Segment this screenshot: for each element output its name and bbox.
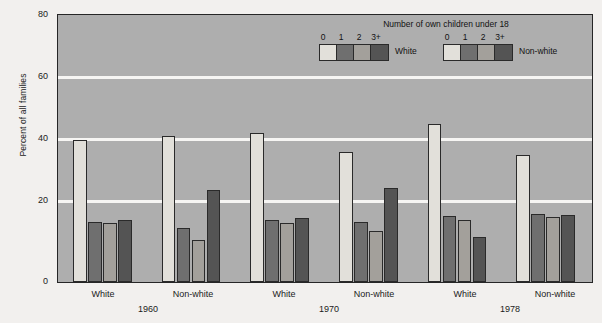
- bar-1960-non-white-2: [192, 240, 206, 282]
- bar-1970-white-3plus: [295, 218, 309, 283]
- y-tick-label: 80: [22, 10, 48, 19]
- bar-1970-white-2: [280, 223, 294, 282]
- bar-1960-white-2: [103, 223, 117, 282]
- legend-swatch-3p: [495, 45, 512, 60]
- bar-1978-white-2: [458, 220, 472, 282]
- bar-1978-non-white-3plus: [561, 215, 575, 282]
- x-group-label-1978-nonwhite: Non-white: [510, 289, 600, 299]
- bar-1960-non-white-0: [162, 136, 176, 282]
- bar-1970-non-white-3plus: [384, 188, 398, 282]
- bar-1978-white-3plus: [473, 237, 487, 282]
- legend-swatch-1: [337, 45, 354, 60]
- legend-swatches-white: [319, 44, 389, 61]
- legend-num-0: 0: [440, 32, 454, 42]
- bar-1978-non-white-0: [516, 155, 530, 282]
- legend-num-3p: 3+: [369, 32, 383, 42]
- legend-num-1: 1: [334, 32, 348, 42]
- legend-num-2: 2: [476, 32, 490, 42]
- bar-1978-non-white-2: [546, 217, 560, 282]
- legend-swatches-nonwhite: [443, 44, 513, 61]
- legend-label-white: White: [395, 46, 417, 56]
- x-year-label-1970: 1970: [284, 304, 374, 314]
- bar-1970-non-white-2: [369, 231, 383, 282]
- bar-1970-white-0: [250, 133, 264, 282]
- legend-num-2: 2: [352, 32, 366, 42]
- legend-swatch-3p: [371, 45, 388, 60]
- bar-chart: Percent of all families 80 60 40 20 0 Wh…: [0, 0, 602, 323]
- legend-swatch-0: [320, 45, 337, 60]
- x-group-label-1978-white: White: [420, 289, 510, 299]
- legend-swatch-0: [444, 45, 461, 60]
- bar-1960-non-white-3plus: [207, 190, 221, 282]
- bar-1970-non-white-1: [354, 222, 368, 283]
- y-axis-ticks: 80 60 40 20 0: [18, 0, 48, 323]
- bar-1970-non-white-0: [339, 152, 353, 282]
- legend-num-3p: 3+: [493, 32, 507, 42]
- x-year-label-1978: 1978: [465, 304, 555, 314]
- legend-title: Number of own children under 18: [316, 19, 576, 29]
- y-tick-label: 40: [22, 134, 48, 143]
- legend-swatch-2: [354, 45, 371, 60]
- bar-1970-white-1: [265, 220, 279, 283]
- legend-num-0: 0: [316, 32, 330, 42]
- bar-1960-non-white-1: [177, 228, 191, 282]
- bar-1960-white-1: [88, 222, 102, 282]
- x-group-label-1970-nonwhite: Non-white: [329, 289, 419, 299]
- legend-label-nonwhite: Non-white: [519, 46, 557, 56]
- x-group-label-1960-white: White: [58, 289, 148, 299]
- legend-num-1: 1: [458, 32, 472, 42]
- x-group-label-1960-nonwhite: Non-white: [148, 289, 238, 299]
- bar-1978-white-1: [443, 216, 457, 283]
- legend: Number of own children under 18 0 1 2 3+…: [316, 19, 576, 73]
- x-group-label-1970-white: White: [239, 289, 329, 299]
- bar-1978-white-0: [428, 124, 442, 282]
- y-tick-label: 0: [22, 277, 48, 286]
- legend-swatch-1: [461, 45, 478, 60]
- x-year-label-1960: 1960: [103, 304, 193, 314]
- y-tick-label: 60: [22, 72, 48, 81]
- bar-1978-non-white-1: [531, 214, 545, 282]
- legend-swatch-2: [478, 45, 495, 60]
- y-tick-label: 20: [22, 196, 48, 205]
- bar-1960-white-3plus: [118, 220, 132, 282]
- bar-1960-white-0: [73, 140, 87, 282]
